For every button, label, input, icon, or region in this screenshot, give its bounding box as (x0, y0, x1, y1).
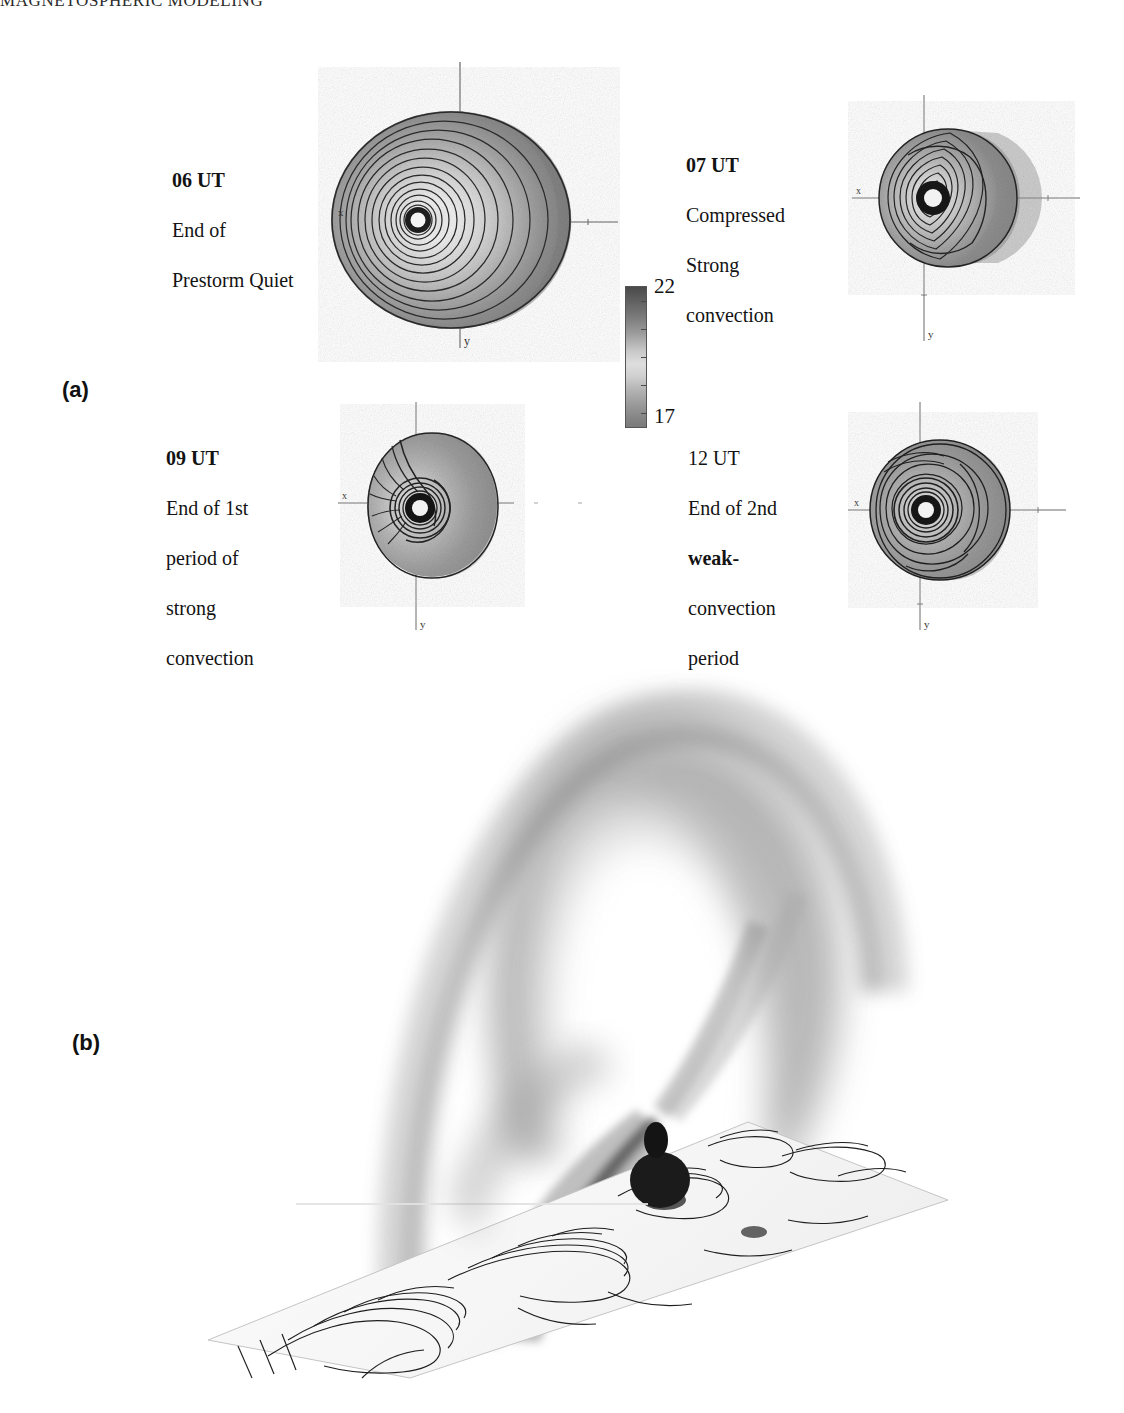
earth-disc-06ut (411, 213, 426, 228)
panel-label-b: (b) (72, 1030, 100, 1056)
colorbar-tick (641, 301, 647, 302)
axis-x-label-07ut: x (856, 185, 861, 196)
caption-06ut: 06 UT End of Prestorm Quiet (172, 143, 294, 318)
magnetosphere-3d-render[interactable] (148, 640, 998, 1380)
caption-12ut-line-3: convection (688, 596, 777, 621)
caption-07ut-line-1: Compressed (686, 203, 785, 228)
polar-plot-07ut[interactable]: x y (848, 95, 1108, 355)
earth-disc-12ut (918, 502, 934, 518)
plane-inner-spot (741, 1226, 767, 1238)
equatorial-plane (208, 1122, 948, 1378)
panel-label-a: (a) (62, 377, 89, 403)
colorbar-tick (641, 385, 647, 386)
caption-09ut-line-2: period of (166, 546, 254, 571)
polar-plot-09ut[interactable]: x y (338, 398, 598, 638)
colorbar-gradient (625, 286, 647, 428)
caption-06ut-line-1: End of (172, 218, 294, 243)
caption-07ut-line-0: 07 UT (686, 153, 785, 178)
polar-plot-06ut[interactable]: x y (318, 52, 638, 362)
polar-plot-12ut[interactable]: x y (848, 398, 1108, 638)
earth-disc-09ut (412, 500, 428, 516)
caption-06ut-line-2: Prestorm Quiet (172, 268, 294, 293)
caption-09ut-line-0: 09 UT (166, 446, 254, 471)
caption-09ut-line-3: strong (166, 596, 254, 621)
axis-y-label-07ut: y (928, 328, 934, 340)
caption-12ut-line-1: End of 2nd (688, 496, 777, 521)
caption-07ut-line-2: Strong (686, 253, 785, 278)
colorbar-tick (641, 329, 647, 330)
axis-x-label-12ut: x (854, 497, 859, 508)
axis-y-label-09ut: y (420, 618, 426, 630)
axis-x-label-09ut: x (342, 490, 347, 501)
earth-disc-07ut (924, 189, 942, 207)
caption-12ut-line-2: weak- (688, 546, 777, 571)
caption-09ut-line-1: End of 1st (166, 496, 254, 521)
colorbar-max-label: 22 (654, 274, 675, 299)
colorbar-tick (641, 357, 647, 358)
colorbar-min-label: 17 (654, 404, 675, 429)
axis-y-label-12ut: y (924, 618, 930, 630)
axis-x-label-06ut: x (338, 206, 344, 218)
caption-12ut-line-0: 12 UT (688, 446, 777, 471)
colorbar-tick (641, 413, 647, 414)
colorbar: 22 17 (620, 276, 710, 436)
caption-06ut-line-0: 06 UT (172, 168, 294, 193)
axis-y-label-06ut: y (464, 334, 470, 348)
running-head: MAGNETOSPHERIC MODELING (0, 0, 1124, 11)
